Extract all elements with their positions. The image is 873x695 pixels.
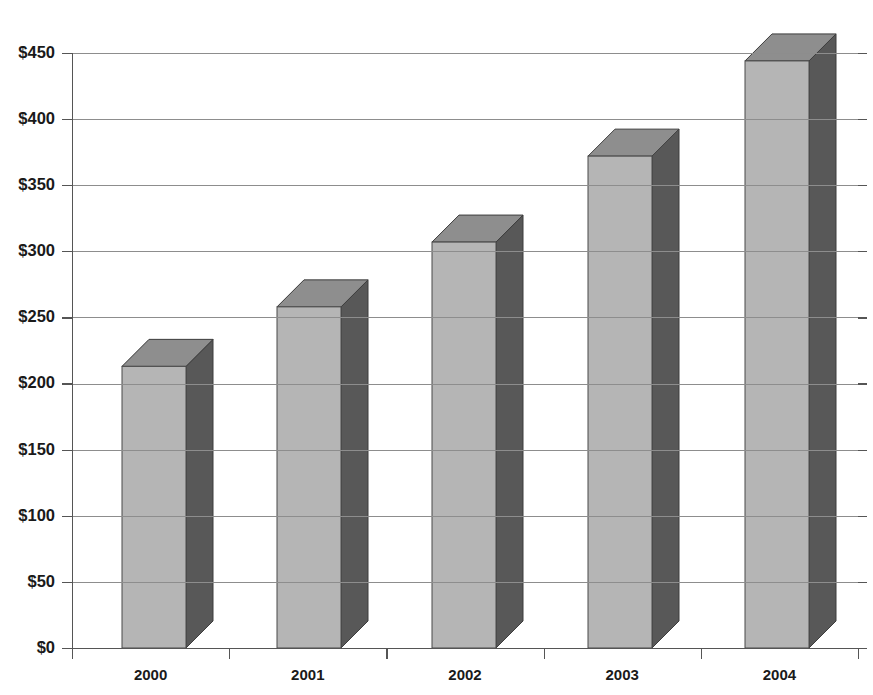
y-axis-tick-label: $150 <box>18 440 55 458</box>
y-axis-tick-label: $450 <box>18 43 55 61</box>
x-axis-tick-label: 2000 <box>134 666 167 683</box>
bar-2001 <box>277 280 368 648</box>
y-axis-tick-label: $400 <box>18 109 55 127</box>
bar-2003 <box>588 129 679 648</box>
x-axis-tick-label: 2002 <box>448 666 481 683</box>
y-axis-tick-label: $300 <box>18 241 55 259</box>
y-axis-tick-label: $350 <box>18 175 55 193</box>
bar-2002 <box>432 215 523 648</box>
x-axis-tick-label: 2001 <box>291 666 324 683</box>
y-axis-tick-label: $100 <box>18 506 55 524</box>
bar-front-face <box>122 366 186 648</box>
x-axis-tick-label: 2003 <box>606 666 639 683</box>
y-axis-tick-label: $50 <box>27 572 55 590</box>
bar-side-face <box>652 129 679 648</box>
chart-container: $0$50$100$150$200$250$300$350$400$450 20… <box>0 0 873 695</box>
bar-side-face <box>496 215 523 648</box>
y-axis-tick-label: $200 <box>18 373 55 391</box>
bar-front-face <box>432 242 496 648</box>
x-axis-tick-label: 2004 <box>763 666 797 683</box>
bar-front-face <box>745 61 809 648</box>
bar-side-face <box>341 280 368 648</box>
bar-front-face <box>277 307 341 648</box>
y-axis-tick-label: $250 <box>18 307 55 325</box>
bar-front-face <box>588 156 652 648</box>
bar-side-face <box>809 34 836 648</box>
bar-side-face <box>186 339 213 648</box>
bar-2000 <box>122 339 213 648</box>
bar-2004 <box>745 34 836 648</box>
y-axis-tick-label: $0 <box>37 638 55 656</box>
bar-chart-3d: $0$50$100$150$200$250$300$350$400$450 20… <box>0 0 873 695</box>
